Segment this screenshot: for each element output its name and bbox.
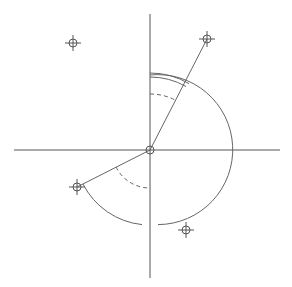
geometry-diagram [0,0,292,287]
diagram-background [0,0,292,287]
